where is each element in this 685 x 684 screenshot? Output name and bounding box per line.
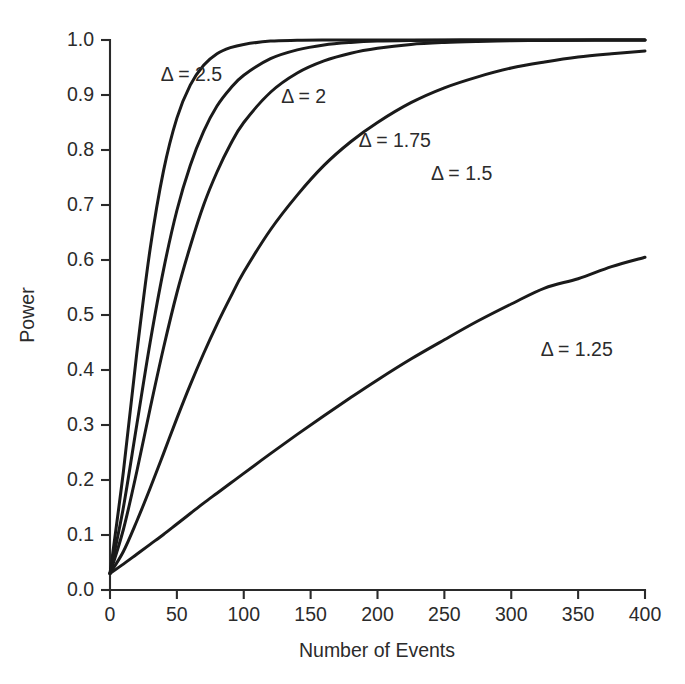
x-tick-label: 400 xyxy=(629,603,662,625)
series-curve-4 xyxy=(110,257,645,573)
y-tick-label: 0.3 xyxy=(67,413,94,435)
series-label-1: Δ = 2 xyxy=(281,85,326,107)
y-tick-label: 0.8 xyxy=(67,138,94,160)
series-curve-1 xyxy=(110,40,645,574)
y-tick-label: 0.5 xyxy=(67,303,94,325)
y-axis: 0.00.10.20.30.40.50.60.70.80.91.0 xyxy=(67,28,110,600)
series-label-2: Δ = 1.75 xyxy=(359,129,431,151)
x-axis: 050100150200250300350400 xyxy=(105,590,662,625)
power-curve-figure: 0.00.10.20.30.40.50.60.70.80.91.0 050100… xyxy=(0,0,685,684)
x-tick-label: 0 xyxy=(105,603,116,625)
y-tick-label: 0.7 xyxy=(67,193,94,215)
x-tick-label: 250 xyxy=(428,603,461,625)
y-tick-label: 0.9 xyxy=(67,83,94,105)
x-axis-title: Number of Events xyxy=(299,639,455,661)
x-tick-label: 200 xyxy=(361,603,394,625)
x-tick-label: 50 xyxy=(166,603,188,625)
series-curve-2 xyxy=(110,40,645,574)
y-tick-label: 0.0 xyxy=(67,578,94,600)
series-label-0: Δ = 2.5 xyxy=(161,63,222,85)
series-curve-0 xyxy=(110,40,645,574)
y-tick-label: 0.4 xyxy=(67,358,94,380)
y-tick-label: 0.6 xyxy=(67,248,94,270)
series-label-3: Δ = 1.5 xyxy=(431,162,492,184)
y-tick-label: 0.2 xyxy=(67,468,94,490)
y-tick-label: 1.0 xyxy=(67,28,94,50)
series-annotations: Δ = 2.5Δ = 2Δ = 1.75Δ = 1.5Δ = 1.25 xyxy=(161,63,613,360)
x-tick-label: 150 xyxy=(294,603,327,625)
y-axis-title: Power xyxy=(16,287,38,343)
chart-canvas: 0.00.10.20.30.40.50.60.70.80.91.0 050100… xyxy=(0,0,685,684)
x-tick-label: 300 xyxy=(495,603,528,625)
x-tick-label: 100 xyxy=(227,603,260,625)
series-curves xyxy=(110,40,645,574)
y-tick-label: 0.1 xyxy=(67,523,94,545)
series-label-4: Δ = 1.25 xyxy=(541,338,613,360)
x-tick-label: 350 xyxy=(562,603,595,625)
